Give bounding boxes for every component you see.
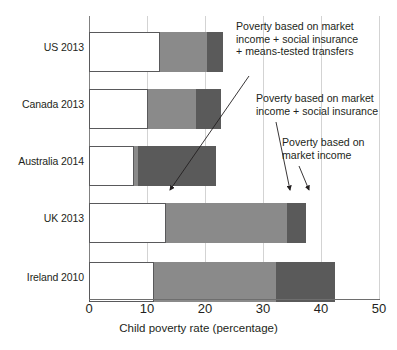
y-label-ireland-2010: Ireland 2010 — [0, 271, 84, 283]
bar-segment — [207, 32, 223, 72]
bar-segment — [196, 89, 220, 129]
bar-segment — [89, 89, 148, 129]
bar-segment — [287, 203, 306, 243]
chart-figure: US 2013 Canada 2013 Australia 2014 UK 20… — [0, 0, 397, 350]
bar-row — [89, 146, 216, 186]
y-axis-labels: US 2013 Canada 2013 Australia 2014 UK 20… — [0, 16, 84, 299]
bar-segment — [160, 32, 206, 72]
bar-row — [89, 89, 221, 129]
y-label-canada-2013: Canada 2013 — [0, 98, 84, 110]
bar-segment — [89, 203, 166, 243]
bar-segment — [166, 203, 287, 243]
bar-segment — [89, 32, 160, 72]
x-tick-50: 50 — [359, 301, 397, 316]
annotation-market-social: Poverty based on market income + social … — [256, 92, 397, 117]
x-tick-10: 10 — [127, 301, 167, 316]
gridline-30 — [263, 16, 264, 299]
bar-segment — [148, 89, 197, 129]
bar-segment — [89, 262, 154, 302]
annotation-market: Poverty based on market income — [282, 136, 397, 161]
y-label-us-2013: US 2013 — [0, 41, 84, 53]
bar-segment — [89, 146, 134, 186]
bar-row — [89, 203, 306, 243]
annotation-market-social-means: Poverty based on market income + social … — [236, 20, 396, 58]
x-tick-0: 0 — [69, 301, 109, 316]
x-tick-40: 40 — [301, 301, 341, 316]
x-axis-title: Child poverty rate (percentage) — [0, 322, 397, 334]
bar-segment — [138, 146, 216, 186]
bar-segment — [276, 262, 335, 302]
y-label-uk-2013: UK 2013 — [0, 212, 84, 224]
bar-segment — [154, 262, 276, 302]
y-label-australia-2014: Australia 2014 — [0, 155, 84, 167]
bar-row — [89, 262, 335, 302]
x-tick-30: 30 — [243, 301, 283, 316]
bar-row — [89, 32, 223, 72]
x-tick-20: 20 — [185, 301, 225, 316]
x-axis-line — [89, 299, 380, 300]
